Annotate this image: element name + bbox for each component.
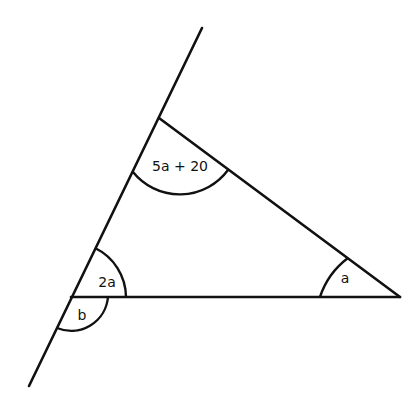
side-top-right <box>159 118 400 297</box>
triangle-diagram: 5a + 20 2a b a <box>0 0 419 404</box>
top-angle-label: 5a + 20 <box>152 158 208 174</box>
extended-side-line <box>29 28 202 386</box>
left-interior-angle-label: 2a <box>98 274 116 290</box>
right-angle-label: a <box>341 270 350 286</box>
exterior-angle-label: b <box>78 307 87 323</box>
